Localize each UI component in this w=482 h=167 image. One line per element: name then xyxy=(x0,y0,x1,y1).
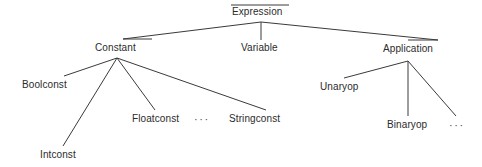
node-floatconst: Floatconst xyxy=(132,113,179,125)
edge-layer xyxy=(0,0,482,167)
node-application: Application xyxy=(383,43,433,55)
edge-constant-boolconst xyxy=(64,58,117,76)
node-unaryop: Unaryop xyxy=(320,81,359,93)
edge-constant-floatconst xyxy=(117,58,155,110)
node-stringconst: Stringconst xyxy=(229,113,280,125)
application-ellipsis-icon: ··· xyxy=(449,119,465,131)
node-boolconst: Boolconst xyxy=(22,79,67,91)
node-intconst: Intconst xyxy=(40,149,76,161)
edge-constant-stringconst xyxy=(117,58,266,110)
node-binaryop: Binaryop xyxy=(387,119,427,131)
constant-ellipsis-icon: ··· xyxy=(194,113,210,125)
node-variable: Variable xyxy=(241,42,278,54)
edge-constant-intconst xyxy=(63,58,117,146)
node-expression: Expression xyxy=(232,6,282,18)
expression-hierarchy-diagram: Expression Constant Variable Application… xyxy=(0,0,482,167)
edge-expression-constant xyxy=(123,22,261,39)
edge-application-ellipsis xyxy=(408,61,456,116)
edge-application-unaryop xyxy=(344,61,408,78)
node-constant: Constant xyxy=(95,42,136,54)
edge-expression-application xyxy=(261,22,438,40)
